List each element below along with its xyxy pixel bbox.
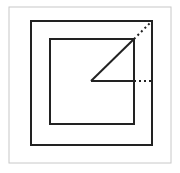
diagram-canvas	[0, 0, 180, 173]
diagonal-dotted-extension	[134, 21, 152, 39]
diagonal-line	[91, 39, 134, 81]
image-frame	[9, 7, 171, 163]
